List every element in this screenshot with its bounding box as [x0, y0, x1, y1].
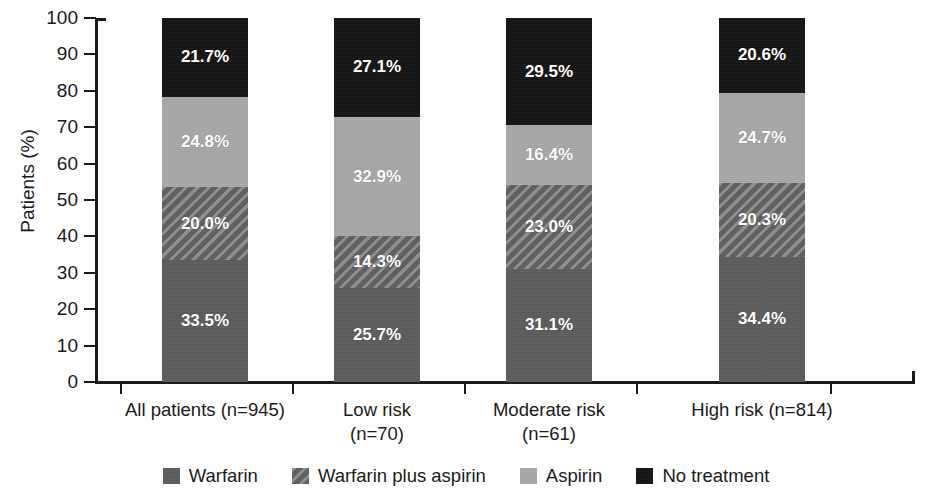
y-axis-tick-label: 70 [16, 117, 78, 136]
bar-segment: 31.1% [506, 269, 592, 382]
y-axis-tick-label-wrap: 60 [10, 154, 78, 173]
bar-segment: 21.7% [162, 18, 248, 97]
bar-segment: 14.3% [334, 236, 420, 288]
y-axis-tick-label-wrap: 90 [10, 44, 78, 63]
y-axis-tick-label-wrap: 30 [10, 263, 78, 282]
bar-segment-label: 21.7% [181, 47, 229, 67]
bar-segment: 24.7% [719, 93, 805, 183]
y-axis-tick-label: 50 [16, 190, 78, 209]
bar-segment-label: 20.3% [738, 210, 786, 230]
legend-label: Warfarin [189, 465, 258, 487]
x-axis-tick [292, 382, 294, 394]
y-axis-tick-label-wrap: 10 [10, 336, 78, 355]
bar-column: 21.7%24.8%20.0%33.5% [162, 18, 248, 382]
bar-segment-label: 31.1% [525, 315, 573, 335]
bar-segment-label: 32.9% [353, 167, 401, 187]
plot-area: 21.7%24.8%20.0%33.5%27.1%32.9%14.3%25.7%… [95, 18, 913, 382]
y-axis-tick-label: 80 [16, 81, 78, 100]
bar-segment: 34.4% [719, 257, 805, 382]
y-axis-tick-label: 60 [16, 154, 78, 173]
bar-segment-label: 29.5% [525, 62, 573, 82]
legend-item[interactable]: Warfarin plus aspirin [292, 465, 486, 487]
chart-legend: WarfarinWarfarin plus aspirinAspirinNo t… [0, 465, 932, 487]
bar-segment: 25.7% [334, 288, 420, 382]
y-axis-tick-label: 40 [16, 226, 78, 245]
bar-segment-label: 33.5% [181, 311, 229, 331]
y-axis-tick-label-wrap: 70 [10, 117, 78, 136]
x-axis-category-label: High risk (n=814) [652, 398, 872, 422]
bar-segment: 24.8% [162, 97, 248, 187]
bar-column: 20.6%24.7%20.3%34.4% [719, 18, 805, 382]
bar-segment-label: 24.8% [181, 132, 229, 152]
x-axis-tick [636, 382, 638, 394]
legend-item[interactable]: Aspirin [520, 465, 603, 487]
legend-swatch-icon [163, 468, 180, 484]
y-axis-tick-label: 30 [16, 263, 78, 282]
y-axis-tick-label-wrap: 40 [10, 226, 78, 245]
y-axis-tick-label: 0 [16, 372, 78, 391]
legend-item[interactable]: Warfarin [163, 465, 258, 487]
y-axis-tick-label: 100 [16, 8, 78, 27]
legend-swatch-icon [292, 468, 309, 484]
bar-segment-label: 20.6% [738, 45, 786, 65]
bar-segment-label: 16.4% [525, 145, 573, 165]
bar-segment: 16.4% [506, 125, 592, 185]
y-axis-tick-label-wrap: 50 [10, 190, 78, 209]
bar-segment: 29.5% [506, 18, 592, 125]
legend-label: No treatment [662, 465, 769, 487]
legend-swatch-icon [520, 468, 537, 484]
legend-item[interactable]: No treatment [636, 465, 769, 487]
y-axis-tick-label: 90 [16, 44, 78, 63]
bar-segment: 27.1% [334, 18, 420, 117]
bar-segment-label: 14.3% [353, 252, 401, 272]
x-axis-tick [120, 382, 122, 394]
legend-swatch-icon [636, 468, 653, 484]
x-axis-tick [830, 382, 832, 394]
y-axis-tick-label-wrap: 100 [10, 8, 78, 27]
legend-label: Warfarin plus aspirin [318, 465, 486, 487]
y-axis-tick-label-wrap: 80 [10, 81, 78, 100]
y-axis-tick-label: 20 [16, 299, 78, 318]
x-axis-category-label: Moderate risk (n=61) [439, 398, 659, 446]
legend-label: Aspirin [546, 465, 603, 487]
bar-segment-label: 27.1% [353, 57, 401, 77]
bar-segment: 33.5% [162, 260, 248, 382]
bar-segment: 32.9% [334, 117, 420, 237]
bar-segment-label: 25.7% [353, 325, 401, 345]
stacked-bar-chart: Patients (%) 1009080706050403020100 21.7… [0, 0, 932, 502]
bar-segment-label: 34.4% [738, 309, 786, 329]
y-axis-tick-label: 10 [16, 336, 78, 355]
bar-segment: 20.0% [162, 187, 248, 260]
bar-segment: 23.0% [506, 185, 592, 269]
bar-column: 29.5%16.4%23.0%31.1% [506, 18, 592, 382]
bar-segment-label: 24.7% [738, 128, 786, 148]
bar-column: 27.1%32.9%14.3%25.7% [334, 18, 420, 382]
bar-segment: 20.6% [719, 18, 805, 93]
bar-segment-label: 23.0% [525, 217, 573, 237]
y-axis-tick-label-wrap: 0 [10, 372, 78, 391]
x-axis-tick [464, 382, 466, 394]
bar-segment: 20.3% [719, 183, 805, 257]
bar-segment-label: 20.0% [181, 214, 229, 234]
y-axis-tick-label-wrap: 20 [10, 299, 78, 318]
